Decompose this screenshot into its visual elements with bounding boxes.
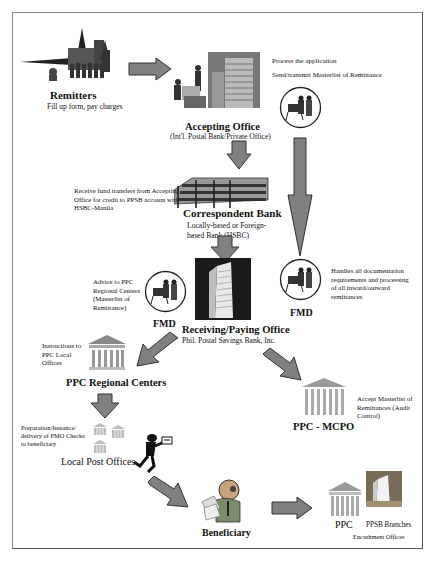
local-post-title: Local Post Offices: [61, 456, 135, 467]
encashment-ppc-building-icon: [327, 480, 363, 518]
correspondent-bank-title: Correspondent Bank: [183, 207, 282, 219]
remitters-illustration: [20, 20, 115, 82]
remitters-title: Remitters: [50, 89, 96, 101]
correspondent-bank-note: Receive fund transfers from Accepting Of…: [74, 187, 186, 213]
accepting-office-note-1: Process the application: [272, 57, 337, 66]
fmd-left-title: FMD: [153, 318, 176, 329]
ppc-mcpo-title: PPC - MCPO: [293, 421, 354, 432]
correspondent-bank-subtitle-1: Locally-based or Foreign-: [187, 221, 266, 230]
ppc-regional-building-icon: [86, 334, 128, 372]
arrow-receiving-to-mcpo: [262, 348, 302, 382]
arrow-remitters-to-accepting: [128, 57, 172, 81]
encashment-ppsb-label: PPSB Branches: [366, 521, 411, 529]
accepting-office-subtitle: (Int'l. Postal Bank/Private Office): [170, 132, 271, 141]
arrow-receiving-to-regional: [136, 332, 180, 368]
encashment-ppsb-building-icon: [366, 471, 402, 507]
arrow-accepting-to-correspondent: [226, 140, 252, 170]
fmd-right-note: Handles all documentation requirements a…: [331, 267, 411, 302]
mail-carrier-icon: [128, 432, 178, 474]
remitters-subtitle: Fill up form, pay charges: [47, 102, 122, 111]
accepting-office-title: Accepting Office: [185, 121, 260, 132]
accepting-office-note-2: Send/transmit Masterlist of Remittance: [272, 71, 382, 80]
local-post-note: Preparation/Issuance/ delivery of PMO Ch…: [21, 424, 87, 449]
fmd-left-note: Advice to PPC Regional Centers (Masterli…: [93, 278, 147, 313]
encashment-ppc-label: PPC: [335, 519, 353, 530]
ppc-regional-note: Instructions to PPC Local Offices: [42, 342, 84, 368]
fmd-right-title: FMD: [290, 307, 313, 318]
fmd-left-desk-icon: [144, 270, 187, 313]
beneficiary-title: Beneficiary: [202, 527, 251, 538]
correspondent-bank-illustration: [174, 170, 274, 210]
ppc-mcpo-note: Accept Masterlist of Remittances (Audit …: [357, 395, 413, 421]
beneficiary-illustration: [200, 478, 246, 524]
accepting-office-illustration: [170, 52, 265, 114]
encashment-caption: Encashment Offices: [353, 533, 405, 540]
local-post-buildings-icon: [92, 422, 132, 454]
ppc-regional-title: PPC Regional Centers: [66, 377, 166, 388]
arrow-accepting-to-fmd: [287, 137, 313, 257]
receiving-office-illustration: [195, 258, 251, 320]
receiving-office-title: Receiving/Paying Office: [182, 324, 290, 335]
arrow-local-to-beneficiary: [147, 476, 189, 510]
arrow-regional-to-local: [90, 393, 120, 419]
arrow-beneficiary-to-encashment: [271, 496, 313, 520]
ppc-mcpo-building-icon: [300, 377, 348, 417]
fmd-right-desk-icon: [279, 258, 322, 301]
receiving-office-subtitle: Phil. Postal Savings Bank, Inc.: [182, 336, 276, 345]
fmd-desk-icon-top: [279, 86, 322, 129]
